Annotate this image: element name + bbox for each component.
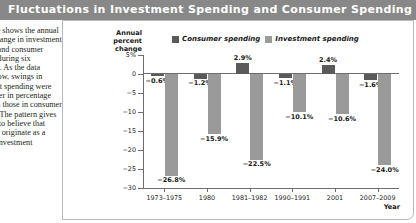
y-axis-title: Annual percent change	[104, 29, 142, 54]
bar-value-label: −22.5%	[240, 160, 274, 168]
bar-value-label: −24.0%	[368, 166, 402, 174]
y-tick	[138, 169, 143, 170]
x-axis-line	[143, 188, 399, 189]
bar-value-label: −10.1%	[282, 113, 316, 121]
figure-page: Fluctuations in Investment Spending and …	[0, 0, 416, 223]
y-axis-title-line1: Annual	[104, 29, 142, 37]
x-tick	[292, 188, 293, 192]
y-axis-title-line2: percent	[104, 37, 142, 45]
figure-title-bar: Fluctuations in Investment Spending and …	[0, 0, 416, 20]
y-tick-label: −10	[110, 108, 136, 116]
x-tick-label: 2007–2009	[352, 194, 404, 202]
bar-value-label: −26.8%	[154, 176, 188, 184]
y-tick-label: −20	[110, 146, 136, 154]
bar-value-label: 2.9%	[226, 54, 260, 62]
legend-swatch-investment	[265, 36, 272, 43]
bar-investment	[165, 74, 178, 176]
y-tick-label: 0	[110, 70, 136, 78]
bar-consumer	[279, 74, 292, 78]
legend-swatch-consumer	[172, 36, 179, 43]
bar-consumer	[194, 74, 207, 79]
y-tick-label: −5	[110, 89, 136, 97]
y-tick	[138, 188, 143, 189]
bar-consumer	[236, 63, 249, 74]
bar-investment	[208, 74, 221, 134]
bar-consumer	[364, 74, 377, 80]
legend-item-investment: Investment spending	[265, 35, 359, 43]
bar-value-label: −15.9%	[197, 135, 231, 143]
x-tick	[207, 188, 208, 192]
figure-caption: The figure shows the annual percent chan…	[0, 26, 62, 156]
x-tick	[250, 188, 251, 192]
zero-line	[143, 73, 399, 74]
x-axis-title: Year	[384, 203, 400, 211]
bar-investment	[250, 74, 263, 160]
bar-value-label: −10.6%	[325, 115, 359, 123]
x-tick	[378, 188, 379, 192]
bar-consumer	[322, 65, 335, 74]
bar-investment	[378, 74, 391, 165]
bar-investment	[336, 74, 349, 114]
legend-label-investment: Investment spending	[275, 35, 359, 43]
y-tick	[138, 112, 143, 113]
y-tick	[138, 150, 143, 151]
legend-label-consumer: Consumer spending	[182, 35, 260, 43]
y-tick-label: 5%	[110, 51, 136, 59]
bar-value-label: 2.4%	[311, 56, 345, 64]
bar-investment	[293, 74, 306, 112]
legend-item-consumer: Consumer spending	[172, 35, 260, 43]
y-tick	[138, 74, 143, 75]
y-tick-label: −25	[110, 165, 136, 173]
x-tick	[164, 188, 165, 192]
y-tick-label: −15	[110, 127, 136, 135]
y-tick-label: −30	[110, 184, 136, 192]
y-tick	[138, 55, 143, 56]
page-title: Fluctuations in Investment Spending and …	[8, 3, 412, 16]
y-tick	[138, 93, 143, 94]
x-tick	[335, 188, 336, 192]
y-axis-line	[143, 55, 144, 189]
y-tick	[138, 131, 143, 132]
chart-legend: Consumer spending Investment spending	[172, 35, 359, 43]
